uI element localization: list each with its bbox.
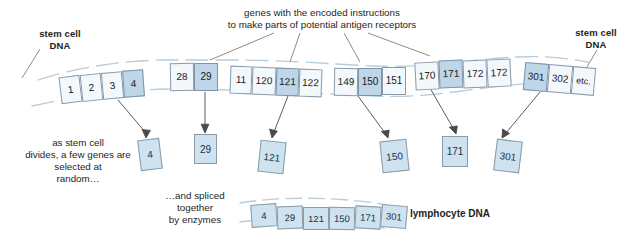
- gene-box-selected[interactable]: 150: [358, 68, 382, 96]
- selected-gene-label: 121: [263, 151, 281, 164]
- gene-box[interactable]: 11: [230, 66, 253, 95]
- lymphocyte-gene-label: 4: [261, 210, 267, 221]
- lymphocyte-gene-box[interactable]: 301: [380, 204, 408, 229]
- gene-box[interactable]: 170: [414, 61, 439, 90]
- leader-note-29: [210, 33, 274, 60]
- selected-gene-card[interactable]: 150: [379, 139, 409, 174]
- gene-box[interactable]: 3: [101, 71, 124, 100]
- selected-gene-card[interactable]: 301: [493, 139, 523, 174]
- lymphocyte-gene-box[interactable]: 29: [277, 206, 304, 230]
- selected-gene-card[interactable]: 121: [257, 140, 286, 175]
- lymphocyte-gene-box[interactable]: 150: [329, 207, 355, 230]
- selected-gene-card[interactable]: 4: [137, 138, 163, 171]
- leader-stem-left: [22, 49, 40, 78]
- gene-label: 170: [418, 71, 435, 82]
- gene-label: 28: [176, 72, 187, 82]
- gene-box[interactable]: 172: [463, 60, 488, 89]
- gene-label: 122: [302, 78, 319, 89]
- lymphocyte-gene-label: 121: [308, 213, 324, 224]
- gene-box-selected[interactable]: 171: [439, 60, 464, 89]
- gene-label: etc.: [576, 76, 591, 86]
- stem-cell-dna-left-label: stem cell DNA: [18, 28, 102, 51]
- lymphocyte-gene-label: 29: [285, 212, 296, 223]
- gene-box-selected[interactable]: 4: [122, 69, 145, 97]
- diagram-canvas: stem cell DNA stem cell DNA genes with t…: [0, 0, 641, 251]
- leader-note-171: [368, 33, 430, 56]
- lymphocyte-gene-label: 171: [360, 212, 376, 224]
- gene-box[interactable]: 28: [170, 63, 194, 91]
- gene-label: 120: [255, 76, 272, 87]
- gene-label: 150: [362, 77, 379, 87]
- gene-box[interactable]: 1: [58, 75, 82, 104]
- lymphocyte-gene-box[interactable]: 171: [354, 205, 381, 229]
- random-selection-note: as stem cell divides, a few genes are se…: [14, 137, 142, 185]
- gene-label: 302: [551, 73, 568, 84]
- gene-label: 172: [490, 68, 507, 79]
- gene-box[interactable]: 302: [547, 64, 573, 94]
- lymphocyte-gene-box[interactable]: 121: [303, 207, 329, 230]
- leader-note-150: [344, 33, 360, 62]
- gene-label: 171: [442, 69, 459, 80]
- gene-label: 29: [200, 72, 211, 82]
- gene-label: 151: [386, 76, 403, 86]
- gene-box[interactable]: 172: [486, 58, 511, 87]
- selected-gene-card[interactable]: 29: [194, 134, 217, 164]
- gene-label: 1: [67, 84, 74, 95]
- gene-label: 301: [527, 71, 544, 82]
- gene-box[interactable]: 122: [299, 69, 323, 98]
- lymphocyte-gene-label: 301: [386, 210, 403, 222]
- gene-label: 121: [279, 77, 296, 88]
- lymphocyte-gene-box[interactable]: 4: [250, 203, 278, 228]
- gene-label: 2: [88, 82, 95, 93]
- gene-box[interactable]: 149: [334, 68, 358, 96]
- gene-box[interactable]: etc.: [571, 66, 596, 96]
- gene-label: 4: [130, 78, 136, 88]
- gene-label: 3: [109, 80, 115, 90]
- gene-box-selected[interactable]: 301: [523, 62, 549, 92]
- gene-box[interactable]: 2: [80, 73, 104, 102]
- selected-gene-card[interactable]: 171: [442, 136, 468, 167]
- selected-gene-label: 150: [386, 150, 404, 163]
- stem-cell-dna-right-label: stem cell DNA: [554, 27, 638, 50]
- leader-note-121: [290, 33, 300, 62]
- spliced-by-enzymes-note: …and spliced together by enzymes: [145, 190, 245, 226]
- selection-arrows: [118, 88, 540, 138]
- selected-gene-label: 301: [499, 150, 517, 163]
- gene-box[interactable]: 151: [382, 67, 406, 95]
- lymphocyte-gene-label: 150: [334, 213, 350, 224]
- gene-box[interactable]: 120: [252, 67, 277, 96]
- antigen-receptor-note: genes with the encoded instructions to m…: [198, 7, 446, 31]
- selected-gene-label: 4: [147, 149, 154, 161]
- gene-label: 149: [338, 77, 355, 87]
- gene-label: 172: [466, 69, 483, 80]
- gene-label: 11: [236, 75, 247, 85]
- gene-box-selected[interactable]: 121: [276, 68, 300, 97]
- selected-gene-label: 171: [447, 146, 464, 157]
- lymphocyte-dna-label: lymphocyte DNA: [410, 208, 490, 220]
- selected-gene-label: 29: [200, 144, 211, 155]
- gene-box-selected[interactable]: 29: [194, 63, 218, 91]
